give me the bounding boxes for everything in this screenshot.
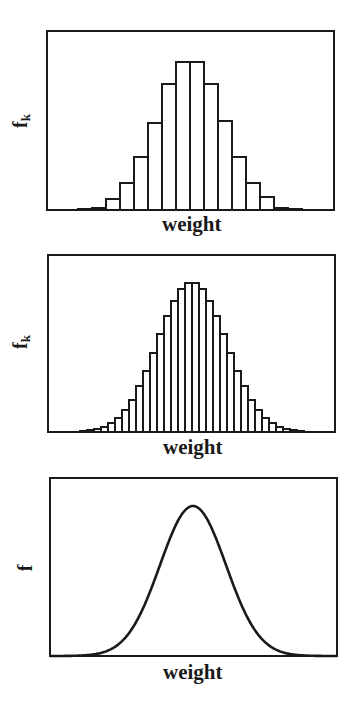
y-axis-label-text: f xyxy=(14,565,36,572)
distribution-curve-panel: f weight xyxy=(0,0,357,724)
y-axis-label: f xyxy=(15,565,35,572)
distribution-curve xyxy=(50,506,337,656)
plot-frame xyxy=(50,478,337,656)
distribution-curve-plot xyxy=(0,0,357,724)
x-axis-label: weight xyxy=(163,662,223,683)
